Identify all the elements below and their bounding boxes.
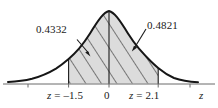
axis-tick-label-z-negative: z = –1.5 xyxy=(47,90,83,101)
axis-tick-label-zero: 0 xyxy=(104,90,110,101)
left-probability-label: 0.4332 xyxy=(36,24,67,35)
z-value-negative: –1.5 xyxy=(63,89,83,101)
shaded-area-group xyxy=(60,5,170,85)
axis-tick-label-z-positive: z = 2.1 xyxy=(129,90,159,101)
shaded-hatched-region xyxy=(60,5,170,85)
x-axis-label: z xyxy=(199,90,203,101)
x-axis-ticks xyxy=(28,84,190,88)
equals-sign-positive: = xyxy=(133,89,145,101)
right-callout-line xyxy=(135,29,146,47)
equals-sign-negative: = xyxy=(51,89,63,101)
normal-distribution-figure: 0.4332 0.4821 z = –1.5 0 z = 2.1 z xyxy=(0,0,218,108)
z-value-positive: 2.1 xyxy=(145,89,159,101)
right-probability-label: 0.4821 xyxy=(147,20,178,31)
